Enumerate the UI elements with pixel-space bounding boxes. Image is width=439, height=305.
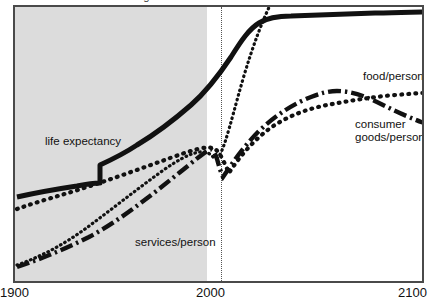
x-tick-2100: 2100 [398, 285, 427, 300]
plot-area: life expectancy services/person food/per… [13, 5, 424, 283]
series-life-expectancy [17, 12, 424, 197]
label-consumer-line-2: goods/person [355, 131, 424, 143]
label-consumer-goods-per-person: consumer goods/person [355, 118, 424, 144]
figure-caption: Standard run: limits to growth [34, 0, 177, 2]
label-food-per-person: food/person [363, 70, 424, 83]
chart-figure: Standard run: limits to growth life expe… [0, 0, 439, 305]
label-consumer-line-1: consumer [355, 118, 406, 130]
label-life-expectancy: life expectancy [45, 135, 121, 148]
x-tick-1900: 1900 [0, 285, 29, 300]
x-tick-2000: 2000 [196, 285, 225, 300]
label-services-per-person: services/person [135, 236, 216, 249]
